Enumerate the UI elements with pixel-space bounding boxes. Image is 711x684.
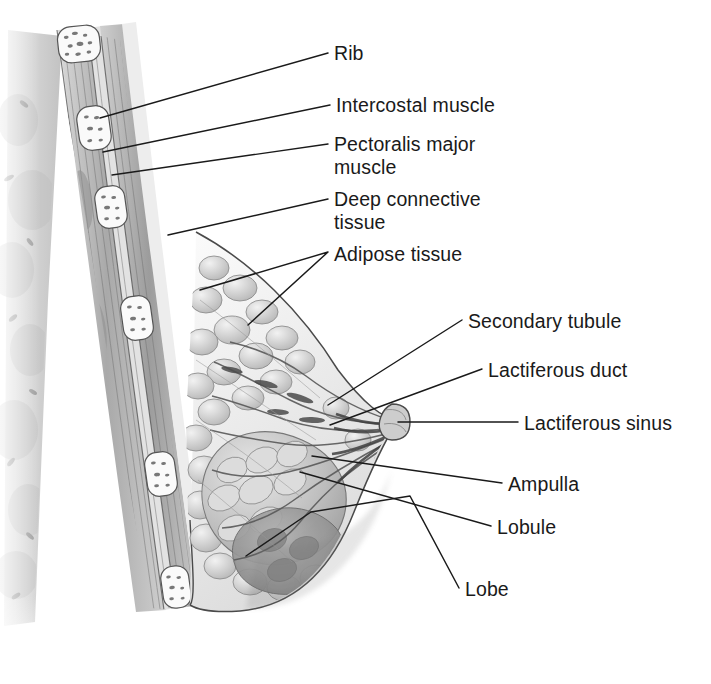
label-text-line: Lactiferous sinus	[524, 412, 672, 435]
label-text-line: Intercostal muscle	[336, 94, 495, 117]
label-text-line: Adipose tissue	[334, 243, 462, 266]
label-text-line: Rib	[334, 42, 364, 65]
label-rib: Rib	[334, 42, 364, 65]
leader-line-secondary-tubule	[328, 320, 462, 405]
rib-cross-section	[56, 24, 102, 64]
label-text-line: Pectoralis major	[334, 133, 475, 156]
label-adipose-tissue: Adipose tissue	[334, 243, 462, 266]
label-intercostal-muscle: Intercostal muscle	[336, 94, 495, 117]
leader-line-deep-connective	[168, 199, 328, 235]
label-secondary-tubule: Secondary tubule	[468, 310, 621, 333]
label-text-line: Secondary tubule	[468, 310, 621, 333]
label-lobule: Lobule	[497, 516, 556, 539]
label-pectoralis-major: Pectoralis majormuscle	[334, 133, 475, 179]
label-lactiferous-sinus: Lactiferous sinus	[524, 412, 672, 435]
label-text-line: Lobe	[465, 578, 509, 601]
label-deep-connective: Deep connectivetissue	[334, 188, 481, 234]
label-ampulla: Ampulla	[508, 473, 579, 496]
label-text-line: tissue	[334, 211, 481, 234]
label-lobe: Lobe	[465, 578, 509, 601]
label-text-line: Deep connective	[334, 188, 481, 211]
label-text-line: Lactiferous duct	[488, 359, 627, 382]
figure-canvas: RibIntercostal musclePectoralis majormus…	[0, 0, 711, 684]
label-text-line: muscle	[334, 156, 475, 179]
label-lactiferous-duct: Lactiferous duct	[488, 359, 627, 382]
label-text-line: Lobule	[497, 516, 556, 539]
label-text-line: Ampulla	[508, 473, 579, 496]
